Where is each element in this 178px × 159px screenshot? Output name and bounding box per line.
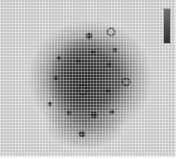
scale-bar bbox=[163, 8, 171, 44]
grid-overlay bbox=[0, 0, 175, 156]
image-frame bbox=[0, 0, 176, 157]
